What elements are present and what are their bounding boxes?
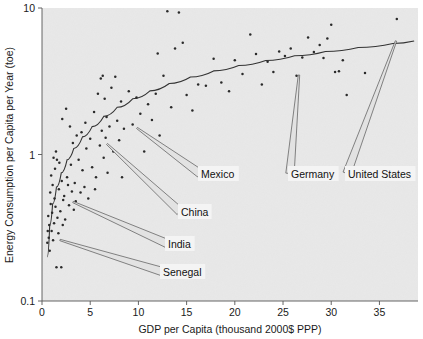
scatter-point bbox=[70, 164, 73, 167]
scatter-point bbox=[313, 51, 316, 54]
callout-label-united-states: United States bbox=[348, 168, 411, 180]
scatter-point bbox=[121, 176, 124, 179]
scatter-point bbox=[307, 36, 310, 39]
scatter-point bbox=[108, 125, 111, 128]
scatter-point bbox=[83, 186, 86, 189]
scatter-point bbox=[102, 157, 105, 160]
x-axis-title: GDP per Capita (thousand 2000$ PPP) bbox=[138, 323, 321, 335]
scatter-point bbox=[53, 197, 56, 200]
scatter-point bbox=[52, 157, 55, 160]
scatter-point bbox=[228, 90, 231, 93]
scatter-point bbox=[289, 47, 292, 50]
scatter-point bbox=[162, 74, 165, 77]
scatter-point bbox=[60, 266, 63, 269]
scatter-point bbox=[54, 205, 57, 208]
x-tick-label: 35 bbox=[374, 306, 386, 318]
scatter-point bbox=[48, 250, 51, 253]
scatter-point bbox=[101, 74, 104, 77]
scatter-point bbox=[50, 174, 53, 177]
scatter-point bbox=[118, 139, 121, 142]
scatter-point bbox=[67, 184, 70, 187]
scatter-point bbox=[100, 77, 103, 80]
scatter-point bbox=[95, 176, 98, 179]
scatter-point bbox=[91, 166, 94, 169]
scatter-point bbox=[68, 204, 71, 207]
scatter-plot-canvas: 05101520253035 0.1110 GDP per Capita (th… bbox=[0, 0, 423, 339]
x-tick-label: 25 bbox=[277, 306, 289, 318]
y-axis-title: Energy Consumption per Capita per Year (… bbox=[3, 47, 15, 263]
scatter-point bbox=[59, 210, 62, 213]
scatter-point bbox=[156, 52, 159, 55]
scatter-point bbox=[71, 190, 74, 193]
scatter-point bbox=[261, 83, 264, 86]
scatter-point bbox=[396, 18, 399, 21]
scatter-point bbox=[72, 142, 75, 145]
scatter-point bbox=[50, 230, 53, 233]
scatter-point bbox=[105, 116, 108, 119]
scatter-point bbox=[364, 72, 367, 75]
x-axis-ticks: 05101520253035 bbox=[39, 301, 385, 318]
scatter-point bbox=[155, 92, 158, 95]
scatter-point bbox=[51, 212, 54, 215]
scatter-point bbox=[52, 239, 55, 242]
scatter-point bbox=[174, 47, 177, 50]
scatter-point bbox=[330, 23, 333, 26]
scatter-point bbox=[73, 208, 76, 211]
scatter-point bbox=[326, 37, 329, 40]
callout-label-india: India bbox=[168, 238, 191, 250]
scatter-point bbox=[47, 215, 50, 218]
scatter-point bbox=[272, 71, 275, 74]
callout-label-germany: Germany bbox=[291, 168, 335, 180]
scatter-point bbox=[116, 119, 119, 122]
scatter-point bbox=[135, 96, 138, 99]
scatter-point bbox=[205, 84, 208, 87]
chart-figure: 05101520253035 0.1110 GDP per Capita (th… bbox=[0, 0, 423, 339]
scatter-point bbox=[97, 92, 100, 95]
scatter-point bbox=[79, 191, 82, 194]
scatter-point bbox=[64, 218, 67, 221]
scatter-point bbox=[84, 121, 87, 124]
scatter-point bbox=[220, 81, 223, 84]
scatter-point bbox=[197, 83, 200, 86]
scatter-point bbox=[74, 182, 77, 185]
scatter-point bbox=[58, 161, 61, 164]
scatter-point bbox=[123, 127, 126, 130]
scatter-point bbox=[106, 172, 109, 175]
scatter-point bbox=[85, 147, 88, 150]
scatter-point bbox=[128, 90, 131, 93]
scatter-point bbox=[120, 100, 123, 103]
scatter-point bbox=[143, 150, 146, 153]
x-tick-label: 0 bbox=[39, 306, 45, 318]
scatter-point bbox=[158, 134, 161, 137]
scatter-point bbox=[266, 60, 269, 63]
scatter-point bbox=[66, 176, 69, 179]
scatter-point bbox=[114, 75, 117, 78]
scatter-point bbox=[49, 191, 52, 194]
scatter-point bbox=[342, 59, 345, 62]
scatter-point bbox=[81, 169, 84, 172]
scatter-point bbox=[249, 33, 252, 36]
scatter-point bbox=[99, 144, 102, 147]
y-tick-label: 1 bbox=[29, 149, 35, 161]
scatter-point bbox=[54, 167, 57, 170]
scatter-point bbox=[93, 111, 96, 114]
scatter-point bbox=[295, 74, 298, 77]
scatter-point bbox=[55, 150, 58, 153]
scatter-point bbox=[212, 58, 215, 61]
callout-label-mexico: Mexico bbox=[201, 168, 234, 180]
scatter-point bbox=[110, 87, 113, 90]
scatter-point bbox=[65, 108, 68, 111]
scatter-point bbox=[87, 197, 90, 200]
scatter-point bbox=[61, 118, 64, 121]
scatter-point bbox=[104, 137, 107, 140]
scatter-point bbox=[101, 130, 104, 133]
scatter-point bbox=[318, 44, 321, 47]
scatter-point bbox=[301, 56, 304, 59]
scatter-point bbox=[46, 241, 49, 244]
scatter-point bbox=[334, 71, 337, 74]
scatter-point bbox=[48, 237, 51, 240]
callout-label-senegal: Senegal bbox=[163, 266, 202, 278]
scatter-point bbox=[69, 125, 72, 128]
scatter-point bbox=[61, 180, 64, 183]
x-tick-label: 5 bbox=[87, 306, 93, 318]
